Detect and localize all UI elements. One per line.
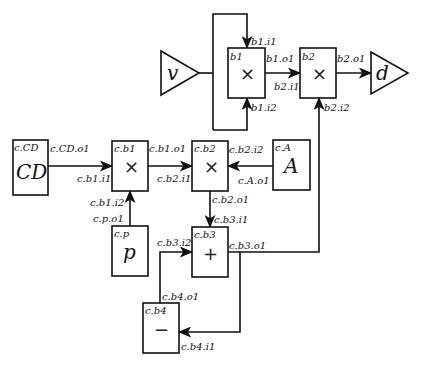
- cb3-name: c.b3: [194, 229, 216, 240]
- cd-name: c.CD: [14, 142, 38, 153]
- cb2-op: ×: [204, 156, 219, 177]
- cb2-name: c.b2: [194, 143, 216, 154]
- output-d: d: [371, 52, 408, 94]
- cb3-i1-label: c.b3.i1: [214, 214, 248, 225]
- cb1-o1-label: c.b1.o1: [149, 143, 186, 154]
- cb3-i2-label: c.b3.i2: [157, 237, 191, 248]
- cb4-i1-label: c.b4.i1: [181, 341, 215, 352]
- v-label: v: [167, 61, 179, 85]
- d-label: d: [376, 61, 389, 85]
- block-diagram: v b1 × b1.i1 b1.i2 b1.o1 b2.i1 b2 × b2.o…: [0, 0, 422, 367]
- cb1-name: c.b1: [114, 143, 136, 154]
- wire-v-b1-i2: [213, 98, 247, 130]
- b2-op: ×: [312, 63, 327, 84]
- block-c-b2: c.b2 ×: [192, 141, 228, 191]
- block-c-p: c.p p: [112, 226, 148, 276]
- ca-symbol: A: [282, 154, 298, 178]
- b2-o1-label: b2.o1: [337, 53, 365, 64]
- b2-i2-label: b2.i2: [324, 102, 350, 113]
- cb3-op: +: [203, 243, 218, 264]
- block-b1: b1 ×: [228, 48, 265, 98]
- b1-op: ×: [240, 63, 255, 84]
- b2-i1-label: b2.i1: [274, 81, 300, 92]
- cb3-o1-label: c.b3.o1: [229, 240, 266, 251]
- cd-symbol: CD: [16, 160, 47, 184]
- cb4-name: c.b4: [145, 305, 167, 316]
- cd-o1-label: c.CD.o1: [50, 143, 90, 154]
- cb2-o1-label: c.b2.o1: [212, 194, 249, 205]
- block-c-A: c.A A: [273, 140, 310, 190]
- cp-o1-label: c.p.o1: [93, 213, 124, 224]
- block-c-b3: c.b3 +: [192, 227, 228, 277]
- input-v: v: [161, 51, 199, 95]
- ca-o1-label: c.A.o1: [238, 175, 270, 186]
- ca-name: c.A: [275, 142, 291, 153]
- cb1-i1-label: c.b1.i1: [77, 173, 111, 184]
- block-c-CD: c.CD CD: [13, 140, 48, 195]
- cp-name: c.p: [114, 228, 130, 239]
- b1-i1-label: b1.i1: [251, 36, 277, 47]
- cb1-op: ×: [124, 156, 139, 177]
- b1-name: b1: [230, 51, 243, 62]
- block-c-b4: c.b4 −: [143, 303, 179, 353]
- cb2-i2-label: c.b2.i2: [229, 144, 263, 155]
- cb2-i1-label: c.b2.i1: [157, 173, 191, 184]
- cb1-i2-label: c.b1.i2: [90, 197, 124, 208]
- block-b2: b2 ×: [300, 48, 336, 98]
- cb4-o1-label: c.b4.o1: [162, 291, 199, 302]
- cp-symbol: p: [123, 240, 136, 264]
- cb4-op: −: [154, 319, 169, 340]
- block-c-b1: c.b1 ×: [112, 141, 148, 191]
- b1-o1-label: b1.o1: [266, 53, 294, 64]
- b1-i2-label: b1.i2: [251, 102, 277, 113]
- b2-name: b2: [302, 51, 315, 62]
